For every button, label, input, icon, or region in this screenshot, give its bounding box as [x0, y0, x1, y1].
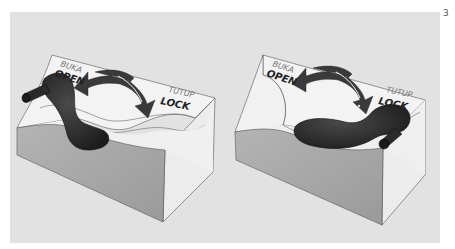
- panel-locked: BUKA OPEN TUTUP LOCK: [235, 55, 425, 225]
- handle-diagram: BUKA OPEN TUTUP LOCK BUKA OPEN TUTUP LOC…: [0, 0, 455, 249]
- panel-open: BUKA OPEN TUTUP LOCK: [17, 55, 215, 222]
- arrow-pivot-dot: [358, 105, 360, 107]
- handle-grip-end: [22, 94, 30, 103]
- handle-grip-end: [379, 139, 389, 149]
